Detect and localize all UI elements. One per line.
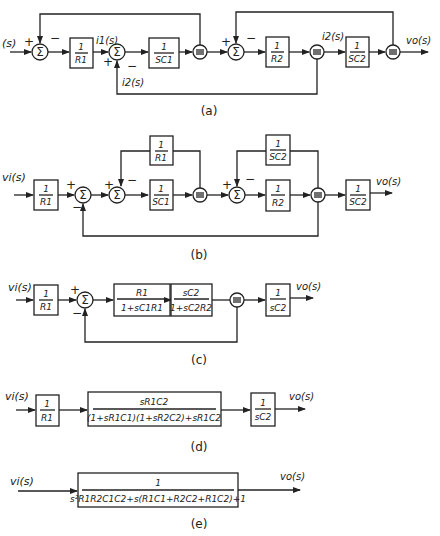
- svg-text:R1: R1: [136, 288, 148, 298]
- caption-e: (e): [191, 517, 208, 531]
- svg-text:1: 1: [78, 42, 84, 52]
- svg-text:SC2: SC2: [348, 54, 366, 64]
- diagram-c-output-label: vo(s): [296, 281, 321, 292]
- svg-text:sC2: sC2: [255, 412, 272, 422]
- i2-node-label: i2(s): [322, 31, 344, 42]
- svg-text:1: 1: [43, 184, 49, 194]
- diagram-a-input-label: (s): [2, 37, 16, 50]
- diagram-d-input-label: vi(s): [5, 390, 29, 403]
- sign: +: [24, 35, 34, 49]
- svg-text:1: 1: [275, 288, 281, 298]
- svg-text:SC1: SC1: [155, 55, 173, 65]
- svg-text:sC2: sC2: [183, 288, 200, 298]
- svg-text:1: 1: [161, 42, 167, 52]
- diagram-b-output-label: vo(s): [376, 176, 401, 187]
- sign: +: [103, 55, 113, 69]
- svg-text:1+sC1R1: 1+sC1R1: [121, 303, 163, 313]
- diagram-d: vi(s) 1 R1 sR1C2 (1+sR1C1)(1+sR2C2)+sR1C…: [5, 390, 314, 454]
- diagram-e-input-label: vi(s): [10, 475, 34, 488]
- svg-text:s²R1R2C1C2+s(R1C1+R2C2+R1C2)+1: s²R1R2C1C2+s(R1C1+R2C2+R1C2)+1: [70, 494, 246, 504]
- sign: +: [66, 178, 76, 192]
- caption-b: (b): [191, 248, 208, 262]
- svg-text:1: 1: [158, 140, 164, 150]
- svg-text:1: 1: [275, 184, 281, 194]
- caption-c: (c): [191, 353, 207, 367]
- sign: −: [50, 31, 60, 45]
- sigma-icon: Σ: [233, 188, 241, 202]
- diagram-a-output-label: vo(s): [406, 35, 431, 46]
- svg-text:sC2: sC2: [270, 303, 287, 313]
- diagram-e-output-label: vo(s): [280, 471, 305, 482]
- svg-text:R1: R1: [41, 413, 53, 423]
- sigma-icon: Σ: [36, 45, 44, 59]
- sign: −: [127, 173, 137, 187]
- svg-text:1: 1: [44, 399, 50, 409]
- svg-text:R2: R2: [271, 54, 283, 64]
- i2-feedback-label: i2(s): [122, 77, 144, 88]
- svg-text:1+sC2R2: 1+sC2R2: [170, 303, 212, 313]
- svg-text:1: 1: [355, 184, 361, 194]
- sigma-icon: Σ: [113, 188, 121, 202]
- svg-text:R2: R2: [272, 198, 284, 208]
- svg-text:R1: R1: [155, 153, 167, 163]
- diagram-b-input-label: vi(s): [2, 171, 26, 184]
- svg-text:1: 1: [260, 398, 266, 408]
- sign: −: [127, 59, 137, 73]
- diagram-b: vi(s) 1 R1 + − Σ + Σ − 1 R1 1 SC1 + Σ −: [2, 135, 401, 262]
- diagram-d-output-label: vo(s): [289, 391, 314, 402]
- svg-text:R1: R1: [75, 55, 87, 65]
- svg-text:(1+sR1C1)(1+sR2C2)+sR1C2: (1+sR1C1)(1+sR2C2)+sR1C2: [87, 413, 221, 423]
- svg-text:sR1C2: sR1C2: [140, 397, 169, 407]
- diagram-c-input-label: vi(s): [8, 281, 32, 294]
- svg-text:1: 1: [155, 478, 161, 488]
- svg-text:1: 1: [354, 41, 360, 51]
- svg-text:SC1: SC1: [152, 197, 170, 207]
- diagram-e: vi(s) 1 s²R1R2C1C2+s(R1C1+R2C2+R1C2)+1 v…: [10, 471, 305, 531]
- sign: −: [246, 31, 256, 45]
- caption-d: (d): [191, 440, 208, 454]
- svg-text:1: 1: [158, 184, 164, 194]
- svg-text:1: 1: [275, 139, 281, 149]
- diagram-c: vi(s) 1 R1 + − Σ R1 1+sC1R1 sC2 1+sC2R2 …: [8, 281, 321, 367]
- svg-text:SC2: SC2: [349, 197, 367, 207]
- sign: −: [245, 172, 255, 186]
- sign: −: [72, 306, 82, 320]
- svg-text:1: 1: [43, 289, 49, 299]
- sigma-icon: Σ: [113, 45, 121, 59]
- svg-text:SC2: SC2: [269, 152, 287, 162]
- block-diagram-figure: (s) + Σ − 1 R1 i1(s) Σ + − 1 SC1 + Σ − 1: [0, 0, 440, 536]
- svg-text:R1: R1: [40, 197, 52, 207]
- svg-text:1: 1: [274, 41, 280, 51]
- diagram-a: (s) + Σ − 1 R1 i1(s) Σ + − 1 SC1 + Σ − 1: [2, 12, 431, 118]
- svg-text:R1: R1: [40, 302, 52, 312]
- sigma-icon: Σ: [79, 188, 87, 202]
- sigma-icon: Σ: [232, 45, 240, 59]
- caption-a: (a): [201, 104, 218, 118]
- sigma-icon: Σ: [81, 293, 89, 307]
